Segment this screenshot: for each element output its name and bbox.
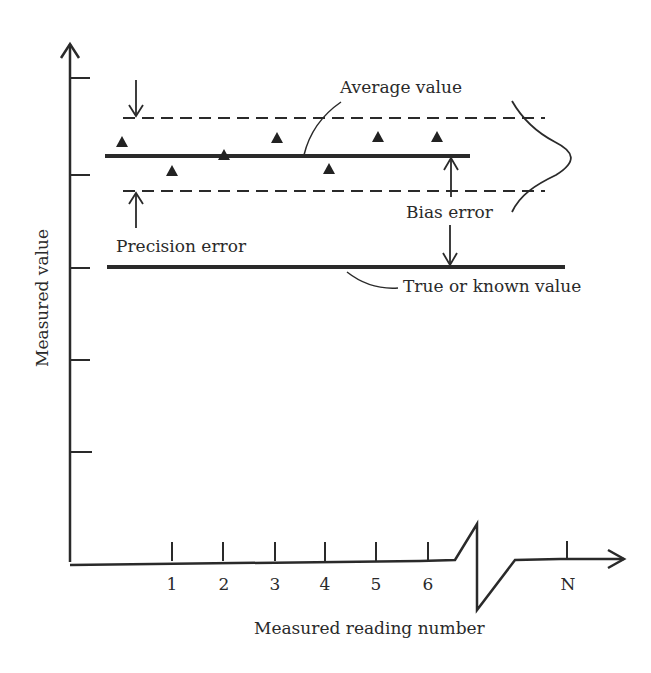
readings (116, 131, 443, 176)
precision-error-label: Precision error (116, 236, 247, 256)
x-tick-5: 5 (371, 574, 382, 594)
x-tick-3: 3 (270, 574, 281, 594)
y-axis (61, 44, 92, 562)
reading-point (323, 163, 335, 174)
x-axis-title: Measured reading number (254, 618, 486, 638)
reading-point (372, 131, 384, 142)
bias-error-label: Bias error (406, 202, 494, 222)
y-axis-title: Measured value (32, 229, 52, 367)
reading-point (271, 132, 283, 143)
measurement-error-diagram: 1 2 3 4 5 6 N (0, 0, 651, 673)
true-value-label: True or known value (403, 276, 581, 296)
x-axis (70, 524, 624, 610)
x-tick-n: N (561, 574, 576, 594)
reading-point (431, 131, 443, 142)
x-tick-6: 6 (423, 574, 434, 594)
reading-point (116, 136, 128, 147)
x-tick-4: 4 (320, 574, 331, 594)
reading-point (166, 165, 178, 176)
x-tick-1: 1 (167, 574, 178, 594)
average-value-leader (304, 102, 341, 155)
x-tick-2: 2 (219, 574, 230, 594)
average-value-label: Average value (339, 77, 462, 97)
true-value-leader (347, 272, 398, 288)
